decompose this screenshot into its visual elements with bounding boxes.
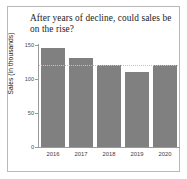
y-tick-label-0: 0 xyxy=(8,144,34,150)
bar-2016 xyxy=(41,48,65,147)
chart-figure: After years of decline, could sales be o… xyxy=(0,0,187,179)
x-axis-line xyxy=(38,147,180,148)
bar-2017 xyxy=(69,58,93,147)
bar-2019 xyxy=(125,72,149,147)
y-axis-tick-labels: 150 100 50 0 xyxy=(6,0,34,179)
x-axis-tick-labels: 2016 2017 2018 2019 2020 xyxy=(39,151,180,163)
x-tick-label-2019: 2019 xyxy=(123,151,151,157)
bar-2018 xyxy=(97,65,121,147)
y-tick-label-150: 150 xyxy=(8,42,34,48)
bar-series xyxy=(39,45,180,147)
y-tick-label-50: 50 xyxy=(8,110,34,116)
reference-line xyxy=(39,65,178,66)
x-tick-label-2017: 2017 xyxy=(67,151,95,157)
x-tick-label-2020: 2020 xyxy=(151,151,179,157)
x-tick-label-2016: 2016 xyxy=(39,151,67,157)
x-tick-label-2018: 2018 xyxy=(95,151,123,157)
chart-title: After years of decline, could sales be o… xyxy=(30,13,182,35)
y-tick-label-100: 100 xyxy=(8,76,34,82)
bar-2020 xyxy=(153,65,177,147)
